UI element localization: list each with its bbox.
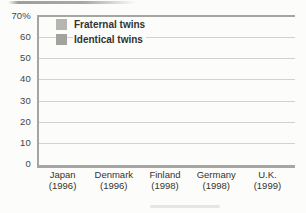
- y-tick-label-40: 40: [0, 74, 31, 84]
- x-label-uk: U.K.(1999): [242, 169, 293, 191]
- x-label-finland: Finland(1998): [139, 169, 190, 191]
- y-tick-label-20: 20: [0, 117, 31, 127]
- y-tick-label-10: 10: [0, 138, 31, 148]
- legend-label-fraternal: Fraternal twins: [73, 19, 148, 31]
- legend-item-fraternal: Fraternal twins: [56, 19, 148, 30]
- y-axis-labels: 70%6050403020100: [0, 0, 33, 213]
- identical-swatch-icon: [56, 34, 67, 45]
- y-tick-label-0: 0: [0, 159, 31, 169]
- legend: Fraternal twins Identical twins: [56, 19, 148, 49]
- x-axis-labels: Japan(1996)Denmark(1996)Finland(1998)Ger…: [37, 169, 293, 191]
- legend-label-identical: Identical twins: [73, 34, 146, 46]
- x-label-germany: Germany(1998): [191, 169, 242, 191]
- twin-study-bar-chart: 70%6050403020100 Fraternal twins Identic…: [0, 0, 306, 213]
- scan-artifact-bottom: [150, 205, 220, 208]
- x-label-japan: Japan(1996): [37, 169, 88, 191]
- y-tick-label-60: 60: [0, 32, 31, 42]
- legend-item-identical: Identical twins: [56, 34, 148, 45]
- x-label-denmark: Denmark(1996): [88, 169, 139, 191]
- fraternal-swatch-icon: [56, 19, 67, 30]
- y-tick-label-70: 70%: [0, 11, 31, 21]
- y-tick-label-50: 50: [0, 53, 31, 63]
- y-tick-label-30: 30: [0, 96, 31, 106]
